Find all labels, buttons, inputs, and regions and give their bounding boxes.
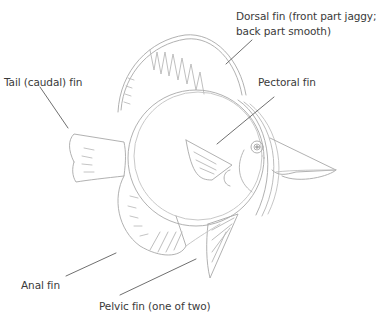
tail-fin-label: Tail (caudal) fin [4,75,82,89]
anal-fin-label: Anal fin [21,278,60,292]
dorsal-fin-label-line2: back part smooth) [236,24,331,38]
pectoral-fin-label: Pectoral fin [258,75,316,89]
anal-leader-line [66,253,116,276]
dorsal-leader-line [226,40,252,64]
tail-leader-line [40,87,68,128]
tail-fin-outline [70,134,126,182]
pelvic-fin-outline [207,214,238,278]
dorsal-fin-outline [118,35,246,112]
pelvic-fin-label: Pelvic fin (one of two) [99,299,211,313]
body-outline [128,90,264,226]
dorsal-fin-label-line1: Dorsal fin (front part jaggy; [236,9,376,23]
anal-fin-outline [118,176,186,255]
snout-outline [270,138,336,174]
pelvic-leader-line [120,259,196,295]
